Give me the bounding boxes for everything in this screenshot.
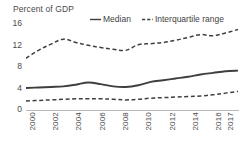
x-axis-tick-2002: 2002: [52, 112, 60, 131]
chart-container: Percent of GDP Median Interquartile rang…: [0, 0, 246, 150]
x-axis-tick-2010: 2010: [145, 112, 153, 131]
x-axis-tick-2012: 2012: [169, 112, 177, 131]
series-line-lower-quartile: [26, 91, 238, 101]
x-axis-tick-2008: 2008: [122, 112, 130, 131]
series-line-upper-quartile: [26, 30, 238, 59]
plot-area: [26, 20, 238, 110]
x-axis-tick-2000: 2000: [29, 112, 37, 131]
y-axis-tick-8: 8: [2, 62, 22, 71]
series-line-median: [26, 71, 238, 88]
x-axis-tick-2006: 2006: [99, 112, 107, 131]
series-lines: [26, 20, 238, 110]
y-axis-tick-0: 0: [2, 105, 22, 114]
y-axis-tick-4: 4: [2, 84, 22, 93]
chart-axis-title: Percent of GDP: [13, 4, 74, 14]
y-axis-tick-16: 16: [2, 19, 22, 28]
x-axis-tick-2004: 2004: [75, 112, 83, 131]
x-axis-tick-2014: 2014: [192, 112, 200, 131]
x-axis-tick-2016: 2016: [215, 112, 223, 131]
y-axis-tick-12: 12: [2, 41, 22, 50]
x-axis-tick-2017: 2017: [227, 112, 235, 131]
